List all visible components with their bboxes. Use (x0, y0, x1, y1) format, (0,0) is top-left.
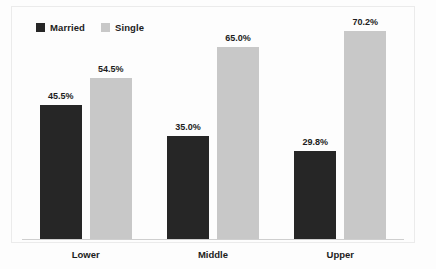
legend-label-married: Married (50, 23, 85, 33)
bar-rect-single-middle (217, 47, 259, 240)
chart-legend: Married Single (36, 23, 144, 33)
bar-value-married-middle: 35.0% (175, 123, 201, 132)
bar-rect-married-upper (294, 151, 336, 240)
legend-item-married: Married (36, 23, 85, 33)
legend-swatch-married (36, 23, 45, 32)
x-axis-line (22, 239, 404, 240)
plot-area: 45.5% 54.5% Lower 35.0% 65.0% (22, 14, 404, 240)
bar-value-single-middle: 65.0% (225, 34, 251, 43)
bar-rect-single-lower (90, 78, 132, 240)
bar-married-upper: 29.8% (294, 14, 336, 240)
bar-group-middle: 35.0% 65.0% Middle (149, 14, 276, 240)
bar-chart-figure: Married Single 45.5% 54.5% Lower (0, 0, 436, 269)
bar-value-married-upper: 29.8% (303, 138, 329, 147)
category-label-upper: Upper (277, 249, 404, 260)
bar-group-upper: 29.8% 70.2% Upper (277, 14, 404, 240)
legend-swatch-single (101, 23, 110, 32)
bar-rect-single-upper (344, 31, 386, 240)
bar-value-single-lower: 54.5% (98, 65, 124, 74)
bar-value-single-upper: 70.2% (353, 18, 379, 27)
bar-single-lower: 54.5% (90, 14, 132, 240)
bar-group-lower: 45.5% 54.5% Lower (22, 14, 149, 240)
bar-single-middle: 65.0% (217, 14, 259, 240)
legend-item-single: Single (101, 23, 144, 33)
bar-married-middle: 35.0% (167, 14, 209, 240)
bar-value-married-lower: 45.5% (48, 92, 74, 101)
bar-married-lower: 45.5% (40, 14, 82, 240)
bar-rect-married-lower (40, 105, 82, 240)
category-label-middle: Middle (149, 249, 276, 260)
category-label-lower: Lower (22, 249, 149, 260)
bar-single-upper: 70.2% (344, 14, 386, 240)
bar-rect-married-middle (167, 136, 209, 240)
legend-label-single: Single (115, 23, 144, 33)
